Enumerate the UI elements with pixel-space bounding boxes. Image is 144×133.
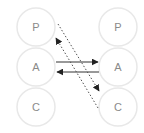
right-adult-label: A [114, 61, 122, 73]
left-adult-state: A [17, 48, 55, 86]
right-person-ego-states: P A C [99, 8, 137, 126]
left-person-ego-states: P A C [17, 8, 55, 126]
arrow-child-to-parent-dotted [56, 38, 98, 108]
left-child-state: C [17, 88, 55, 126]
transaction-arrows [56, 24, 99, 108]
left-adult-label: A [32, 61, 40, 73]
left-child-label: C [32, 101, 40, 113]
arrow-parent-to-child-dotted [58, 24, 99, 91]
left-parent-state: P [17, 8, 55, 46]
right-parent-label: P [114, 21, 121, 33]
ta-diagram: P A C P A C [0, 0, 144, 133]
right-child-label: C [114, 101, 122, 113]
right-adult-state: A [99, 48, 137, 86]
right-child-state: C [99, 88, 137, 126]
left-parent-label: P [32, 21, 39, 33]
right-parent-state: P [99, 8, 137, 46]
